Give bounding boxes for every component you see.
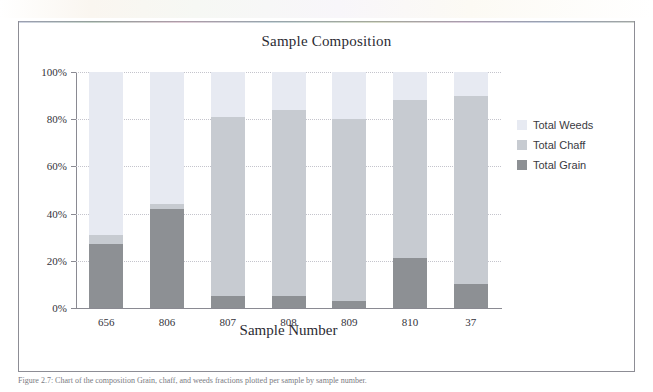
legend-item[interactable]: Total Chaff — [517, 136, 629, 153]
bar-segment[interactable] — [454, 284, 488, 308]
scan-artifact-band — [0, 0, 653, 18]
bar-segment[interactable] — [393, 100, 427, 258]
y-tick-label: 100% — [41, 66, 67, 78]
legend-label: Total Weeds — [533, 119, 593, 131]
legend-label: Total Chaff — [533, 139, 585, 151]
legend-label: Total Grain — [533, 159, 586, 171]
legend-swatch — [517, 140, 527, 150]
plot-area: 0%20%40%60%80%100% 65680680780880981037 — [76, 72, 501, 308]
bar-segment[interactable] — [150, 204, 184, 209]
figure-caption: Figure 2.7: Chart of the composition Gra… — [18, 376, 635, 390]
y-tick-label: 80% — [47, 113, 67, 125]
bar-segment[interactable] — [89, 235, 123, 244]
chart-figure-frame: Sample Composition 0%20%40%60%80%100% 65… — [18, 21, 635, 372]
bar-segment[interactable] — [150, 209, 184, 308]
bar-segment[interactable] — [211, 72, 245, 117]
bar-segment[interactable] — [211, 296, 245, 308]
legend-swatch — [517, 160, 527, 170]
legend-item[interactable]: Total Grain — [517, 156, 629, 173]
y-tick-label: 20% — [47, 255, 67, 267]
bar-segment[interactable] — [150, 72, 184, 204]
bar-segment[interactable] — [332, 72, 366, 119]
legend-item[interactable]: Total Weeds — [517, 116, 629, 133]
y-tick-label: 60% — [47, 160, 67, 172]
y-tick-label: 40% — [47, 208, 67, 220]
bar-segment[interactable] — [393, 72, 427, 100]
bar-segment[interactable] — [454, 72, 488, 96]
chart-title: Sample Composition — [19, 33, 634, 50]
y-tick-label: 0% — [52, 302, 67, 314]
bar-segment[interactable] — [393, 258, 427, 308]
bar-segment[interactable] — [332, 301, 366, 308]
y-axis-line — [76, 72, 77, 309]
bar-segment[interactable] — [272, 110, 306, 296]
legend-swatch — [517, 120, 527, 130]
chart-legend: Total WeedsTotal ChaffTotal Grain — [517, 116, 629, 176]
x-axis-line — [76, 308, 502, 309]
bar-segment[interactable] — [332, 119, 366, 301]
x-axis-title: Sample Number — [76, 322, 501, 339]
bar-segment[interactable] — [272, 72, 306, 110]
bar-segment[interactable] — [454, 96, 488, 285]
bar-segment[interactable] — [272, 296, 306, 308]
bar-segment[interactable] — [89, 72, 123, 235]
y-tick-mark — [71, 308, 76, 309]
figure-page: Sample Composition 0%20%40%60%80%100% 65… — [0, 0, 653, 392]
bar-segment[interactable] — [211, 117, 245, 296]
bar-segment[interactable] — [89, 244, 123, 308]
